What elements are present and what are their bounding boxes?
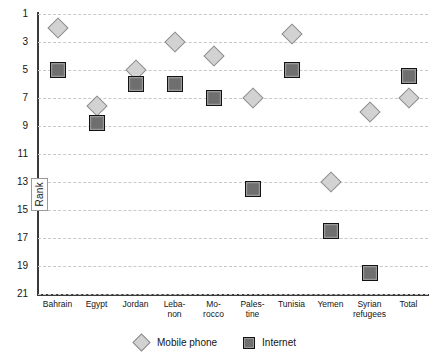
gridline [38,238,428,239]
legend-item-mobile-phone[interactable]: Mobile phone [133,334,217,351]
gridline [38,154,428,155]
square-marker-icon [243,337,255,349]
data-point-internet [323,223,339,239]
y-axis-tick-label: 19 [0,261,28,271]
x-axis-tick-label: Total [386,300,429,310]
data-point-mobile-phone [398,87,419,108]
data-point-mobile-phone [320,171,341,192]
y-axis-tick-label: 1 [0,9,28,19]
data-point-mobile-phone [47,17,68,38]
data-point-internet [401,68,417,84]
y-axis-tick-label: 7 [0,93,28,103]
data-point-internet [245,181,261,197]
y-axis-title: Rank [34,182,45,207]
gridline [38,210,428,211]
y-axis-tick-label: 21 [0,289,28,299]
data-point-internet [362,265,378,281]
data-point-mobile-phone [242,87,263,108]
x-axis-tick-labels: BahrainEgyptJordanLeba-nonMo-roccoPales-… [38,300,428,328]
data-point-mobile-phone [203,45,224,66]
gridline [38,14,428,15]
data-point-internet [50,62,66,78]
diamond-marker-icon [133,334,150,351]
data-point-mobile-phone [164,31,185,52]
y-axis-tick-label: 3 [0,37,28,47]
data-point-internet [128,76,144,92]
y-axis-tick-label: 11 [0,149,28,159]
y-axis-tick-labels: 13579111315171921 [0,14,34,294]
legend-item-internet[interactable]: Internet [243,337,296,349]
gridline [38,294,428,295]
data-point-mobile-phone [359,101,380,122]
gridline [38,182,428,183]
y-axis-tick-label: 9 [0,121,28,131]
chart-legend: Mobile phone Internet [0,334,429,351]
gridline [38,42,428,43]
y-axis-title-box: Rank [31,178,48,211]
gridline [38,70,428,71]
rank-scatter-chart: 13579111315171921 Rank BahrainEgyptJorda… [0,0,429,360]
legend-label-mobile-phone: Mobile phone [157,337,217,348]
data-point-internet [206,90,222,106]
legend-label-internet: Internet [262,337,296,348]
y-axis-tick-label: 13 [0,177,28,187]
y-axis-tick-label: 15 [0,205,28,215]
plot-area [38,14,428,294]
y-axis-tick-label: 5 [0,65,28,75]
data-point-internet [89,115,105,131]
data-point-internet [284,62,300,78]
y-axis-tick-label: 17 [0,233,28,243]
data-point-internet [167,76,183,92]
